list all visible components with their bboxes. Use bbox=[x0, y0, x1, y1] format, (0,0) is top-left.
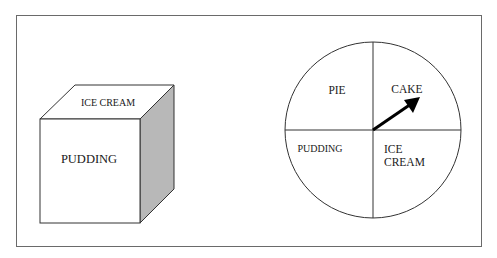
spinner-section-ice-cream-line2: CREAM bbox=[384, 156, 425, 168]
cube-front-label: PUDDING bbox=[61, 152, 117, 166]
cube-front-face bbox=[40, 119, 140, 223]
spinner-section-cake: CAKE bbox=[391, 83, 422, 95]
spinner-section-ice-cream-line1: ICE bbox=[384, 143, 403, 155]
figure-canvas: ICE CREAM PUDDING PIE CAKE PUDDING ICE C… bbox=[0, 0, 497, 258]
spinner: PIE CAKE PUDDING ICE CREAM bbox=[285, 42, 461, 218]
cube-top-label: ICE CREAM bbox=[81, 97, 135, 108]
spinner-section-pie: PIE bbox=[328, 84, 345, 96]
spinner-section-pudding: PUDDING bbox=[298, 143, 343, 154]
cube: ICE CREAM PUDDING bbox=[40, 85, 174, 223]
